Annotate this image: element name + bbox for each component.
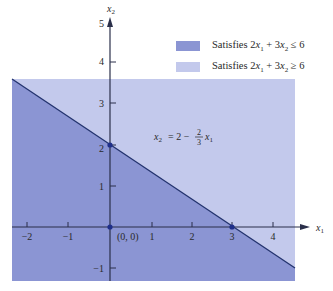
point-origin xyxy=(107,224,112,229)
legend: Satisfies 2x1 + 3x2 ≤ 6 Satisfies 2x1 + … xyxy=(176,39,305,81)
x-tick-label: −1 xyxy=(63,231,74,242)
y-tick-label: 2 xyxy=(99,143,104,154)
y-tick-label: 5 xyxy=(99,18,104,29)
legend-swatch-dark xyxy=(176,41,200,51)
y-axis-label: x2 xyxy=(106,3,115,16)
x-tick-label: 2 xyxy=(190,231,195,242)
y-axis-arrow-icon xyxy=(107,17,113,27)
legend-label: Satisfies 2x1 + 3x2 ≥ 6 xyxy=(212,60,305,74)
y-tick-label: 3 xyxy=(99,98,104,109)
y-tick-label: 1 xyxy=(99,181,104,192)
x-tick-label: 4 xyxy=(271,231,276,242)
x-tick-label: 1 xyxy=(150,231,155,242)
legend-item-below: Satisfies 2x1 + 3x2 ≤ 6 xyxy=(176,39,305,53)
legend-item-above: Satisfies 2x1 + 3x2 ≥ 6 xyxy=(176,60,305,74)
y-tick-label: −1 xyxy=(93,263,104,274)
x-axis-label: x1 xyxy=(315,222,324,235)
svg-text:3: 3 xyxy=(197,138,201,147)
x-tick-label: −2 xyxy=(22,231,33,242)
point-x-intercept xyxy=(229,224,234,229)
svg-text:= 2 −: = 2 − xyxy=(168,131,190,142)
y-tick-label: 4 xyxy=(99,56,104,67)
legend-swatch-light xyxy=(176,62,200,72)
x-axis-arrow-icon xyxy=(300,224,310,230)
point-y-intercept xyxy=(107,142,112,147)
origin-label: (0, 0) xyxy=(117,231,139,243)
svg-text:2: 2 xyxy=(197,128,201,137)
legend-label: Satisfies 2x1 + 3x2 ≤ 6 xyxy=(212,39,305,53)
x-tick-label: 3 xyxy=(230,231,235,242)
